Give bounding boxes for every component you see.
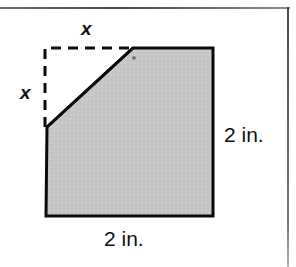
label-bottom-side-length: 2 in. bbox=[104, 228, 144, 249]
corner-tick-icon bbox=[132, 56, 136, 60]
label-x-left: x bbox=[20, 83, 31, 102]
label-x-top: x bbox=[81, 19, 92, 38]
figure-container: x x 2 in. 2 in. bbox=[0, 0, 296, 267]
label-right-side-length: 2 in. bbox=[224, 124, 264, 145]
shaded-pentagon bbox=[46, 48, 213, 216]
